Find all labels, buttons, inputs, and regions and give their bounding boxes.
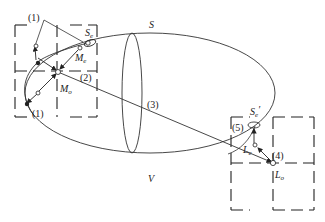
label-volume-V: V bbox=[148, 173, 156, 184]
label-surface-S: S bbox=[149, 19, 154, 30]
label-Se-prime: Se′ bbox=[250, 104, 261, 119]
label-Mo: Mo bbox=[59, 83, 72, 96]
label-Lo: Lo bbox=[274, 169, 285, 182]
point-left-filled bbox=[36, 61, 40, 65]
Se-prime-ring bbox=[248, 122, 260, 128]
point-Me bbox=[78, 46, 82, 50]
label-step4: (4) bbox=[272, 150, 284, 162]
label-Le: Le bbox=[242, 144, 252, 157]
label-step5: (5) bbox=[232, 122, 244, 134]
label-step2: (2) bbox=[80, 72, 92, 84]
arrow-bottom-down bbox=[27, 94, 37, 103]
label-Me: Me bbox=[74, 52, 86, 65]
label-Se: Se bbox=[85, 27, 93, 40]
point-Mo bbox=[56, 70, 61, 75]
point-Lo bbox=[270, 160, 275, 165]
cross-section-ellipse bbox=[122, 33, 142, 153]
point-bottom-open bbox=[36, 91, 40, 95]
diagram-canvas: (1) (1) (2) (3) (4) (5) S V Se Me Mo Se′… bbox=[0, 0, 325, 222]
point-bottom-filled bbox=[25, 102, 29, 106]
point-Le bbox=[253, 143, 257, 147]
label-step1-top: (1) bbox=[28, 12, 40, 24]
diagram-svg: (1) (1) (2) (3) (4) (5) S V Se Me Mo Se′… bbox=[0, 0, 325, 222]
triangle-lines bbox=[35, 20, 83, 46]
arrow-left-up bbox=[35, 47, 36, 60]
label-step1-bottom: (1) bbox=[32, 108, 44, 120]
arrow-bottom-Mo bbox=[38, 74, 56, 92]
label-step3: (3) bbox=[147, 99, 159, 111]
point-left-open bbox=[34, 44, 38, 48]
